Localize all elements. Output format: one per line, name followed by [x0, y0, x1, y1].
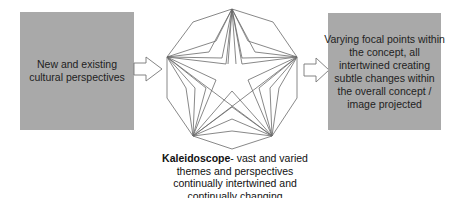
- right-box-line: the overall concept /: [324, 85, 445, 98]
- caption-title-suffix: - vast and varied: [230, 152, 308, 164]
- right-box-line: subtle changes within: [324, 72, 445, 85]
- caption-line: continually intertwined and: [160, 177, 310, 190]
- kaleidoscope-icon: [167, 9, 297, 149]
- right-box-line: intertwined creating: [324, 59, 445, 72]
- right-box-line: image projected: [324, 98, 445, 111]
- right-concept-box: Varying focal points within the concept,…: [328, 13, 441, 130]
- right-box-line: the concept, all: [324, 46, 445, 59]
- right-box-text: Varying focal points within the concept,…: [324, 33, 445, 111]
- caption-title-line: Kaleidoscope- vast and varied: [160, 152, 310, 165]
- caption-title: Kaleidoscope: [162, 152, 230, 164]
- caption-line: continually changing: [160, 190, 310, 199]
- left-arrow-icon: [134, 57, 162, 81]
- kaleidoscope-caption: Kaleidoscope- vast and varied themes and…: [160, 152, 310, 198]
- right-box-line: Varying focal points within: [324, 33, 445, 46]
- caption-line: themes and perspectives: [160, 165, 310, 178]
